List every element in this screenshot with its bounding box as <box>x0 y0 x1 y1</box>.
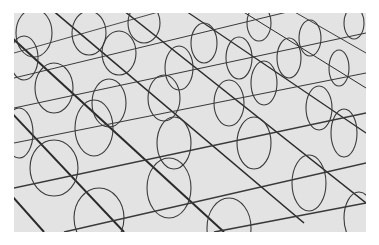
grid-svg <box>14 13 366 232</box>
ellipse-loops <box>14 13 366 232</box>
rendered-grid-image <box>14 13 366 232</box>
